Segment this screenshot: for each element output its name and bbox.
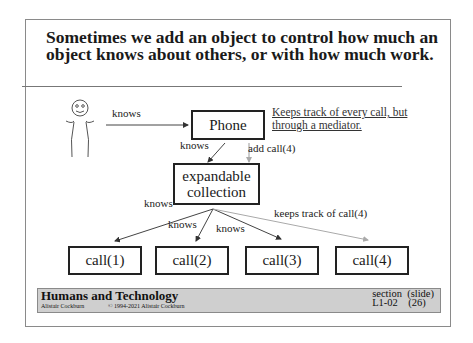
edge-knows-label-1: knows bbox=[168, 218, 197, 230]
collection-box: expandable collection bbox=[173, 163, 260, 205]
footer-author: Alistair Cockburn bbox=[41, 303, 84, 309]
edge-knows-label-2: knows bbox=[216, 222, 245, 234]
phone-note: Keeps track of every call, but through a… bbox=[272, 106, 407, 132]
footer-copyright: © 1994-2021 Alistair Cockburn bbox=[108, 303, 184, 309]
phone-note-line-1: Keeps track of every call, but bbox=[272, 106, 407, 119]
keeps-track-label: keeps track of call(4) bbox=[274, 207, 367, 219]
person-icon bbox=[66, 100, 94, 157]
collection-label-line-1: expandable bbox=[175, 168, 258, 184]
call-label-1: call(1) bbox=[85, 252, 124, 268]
call-box-1: call(1) bbox=[68, 246, 142, 275]
call-box-4: call(4) bbox=[335, 246, 409, 275]
call-box-2: call(2) bbox=[155, 246, 229, 275]
phone-label: Phone bbox=[209, 117, 247, 133]
collection-knows-label: knows bbox=[144, 197, 173, 209]
call-box-3: call(3) bbox=[245, 246, 319, 275]
actor-knows-label: knows bbox=[112, 107, 141, 119]
call-label-4: call(4) bbox=[352, 252, 391, 268]
footer-section: section (slide) L1-02 (26) bbox=[372, 289, 434, 307]
slide-footer: Humans and Technology Alistair Cockburn … bbox=[37, 288, 441, 313]
add-call-label: add call(4) bbox=[248, 142, 295, 154]
call-label-2: call(2) bbox=[172, 252, 211, 268]
phone-note-line-2: through a mediator. bbox=[272, 119, 407, 132]
collection-label-line-2: collection bbox=[175, 184, 258, 200]
footer-section-value: L1-02 (26) bbox=[372, 298, 434, 307]
phone-box: Phone bbox=[191, 110, 265, 140]
footer-course-title: Humans and Technology bbox=[41, 289, 178, 302]
call-label-3: call(3) bbox=[262, 252, 301, 268]
phone-knows-label: knows bbox=[180, 139, 209, 151]
